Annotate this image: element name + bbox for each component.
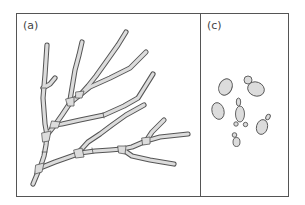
- diagram-canvas: [0, 0, 305, 205]
- yeast-cell: [233, 138, 240, 147]
- panel-c-label: (c): [207, 20, 222, 31]
- panel-a-label: (a): [23, 20, 38, 31]
- yeast-bud: [234, 122, 238, 126]
- yeast-bud: [232, 133, 237, 138]
- yeast-bud: [243, 122, 247, 126]
- figure: (a) (c): [0, 0, 305, 205]
- frame: [17, 14, 289, 197]
- yeast-cell: [236, 106, 245, 122]
- yeast-bud: [236, 98, 240, 106]
